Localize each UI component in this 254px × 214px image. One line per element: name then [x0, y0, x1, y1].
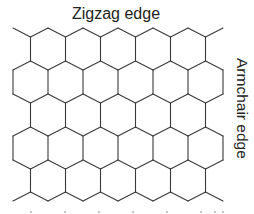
zigzag-edge-label: Zigzag edge: [0, 4, 232, 24]
hexagonal-lattice: [0, 0, 254, 214]
armchair-edge-label: Armchair edge: [233, 58, 251, 158]
cropped-caption-fragment: [0, 209, 254, 214]
graphene-diagram: Zigzag edge Armchair edge: [0, 0, 254, 214]
